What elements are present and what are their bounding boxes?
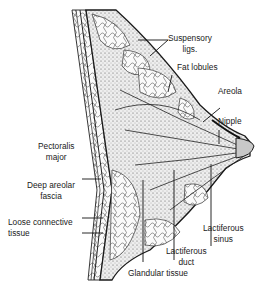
label-suspensory-line1: Suspensory: [168, 33, 212, 44]
label-pectoralis-line1: Pectoralis: [38, 141, 74, 152]
label-fat-lobules: Fat lobules: [177, 62, 218, 73]
label-glandular-tissue: Glandular tissue: [128, 268, 188, 279]
label-suspensory-line2: ligs.: [168, 44, 212, 55]
label-areola: Areola: [218, 86, 242, 97]
label-lactiferous-sinus: Lactiferous sinus: [203, 223, 244, 244]
label-pectoralis-major: Pectoralis major: [38, 141, 74, 162]
label-lact-sinus-line2: sinus: [203, 234, 244, 245]
label-deep-areolar-fascia: Deep areolar fascia: [27, 180, 75, 201]
label-loose-connective-tissue: Loose connective tissue: [8, 217, 73, 238]
label-deep-areolar-line2: fascia: [27, 191, 75, 202]
label-lact-sinus-line1: Lactiferous: [203, 223, 244, 234]
label-loose-line2: tissue: [8, 228, 73, 239]
breast-anatomy-diagram: Suspensory ligs. Fat lobules Areola Nipp…: [0, 0, 268, 286]
label-nipple: Nipple: [218, 116, 242, 127]
label-deep-areolar-line1: Deep areolar: [27, 180, 75, 191]
label-lact-duct-line1: Lactiferous: [166, 246, 207, 257]
label-loose-line1: Loose connective: [8, 217, 73, 228]
label-pectoralis-line2: major: [38, 152, 74, 163]
label-lactiferous-duct: Lactiferous duct: [166, 246, 207, 267]
label-suspensory-ligs: Suspensory ligs.: [168, 33, 212, 54]
label-lact-duct-line2: duct: [166, 257, 207, 268]
